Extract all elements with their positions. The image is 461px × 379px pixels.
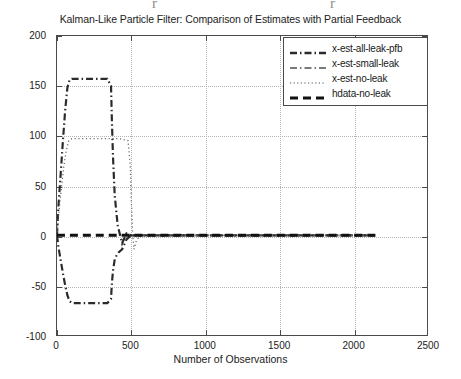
legend-item[interactable]: x-est-small-leak (284, 56, 428, 71)
x-axis-tick-label: 500 (122, 340, 139, 351)
legend-item[interactable]: x-est-all-leak-pfb (284, 41, 428, 56)
trace-x-est-no-leak (57, 139, 375, 250)
x-axis-label: Number of Observations (0, 353, 461, 365)
y-axis-tick-label: 200 (0, 30, 46, 41)
y-axis-tick-label: -100 (0, 331, 46, 342)
x-axis-tick-label: 2000 (342, 340, 364, 351)
y-axis-tick-label: 0 (0, 230, 46, 241)
legend-line-sample (289, 59, 327, 69)
legend-line-sample (289, 44, 327, 54)
chart-figure: Kalman-Like Particle Filter: Comparison … (0, 0, 461, 379)
legend-item-label: x-est-small-leak (332, 58, 399, 69)
x-axis-tick-label: 0 (53, 340, 59, 351)
y-axis-tick-label: 50 (0, 180, 46, 191)
trace-x-est-small-leak (57, 235, 375, 303)
legend-item-label: x-est-no-leak (332, 73, 387, 84)
y-axis-tick-label: 150 (0, 80, 46, 91)
legend-item[interactable]: x-est-no-leak (284, 71, 428, 86)
y-axis-tick-label: 100 (0, 130, 46, 141)
chart-legend: x-est-all-leak-pfbx-est-small-leakx-est-… (283, 37, 428, 106)
legend-item[interactable]: hdata-no-leak (284, 86, 428, 101)
legend-line-sample (289, 74, 327, 84)
x-axis-tick-label: 2500 (417, 340, 439, 351)
plot-area: x-est-all-leak-pfbx-est-small-leakx-est-… (56, 35, 428, 336)
legend-item-label: hdata-no-leak (332, 88, 391, 99)
legend-line-sample (289, 89, 327, 99)
chart-title: Kalman-Like Particle Filter: Comparison … (0, 13, 461, 25)
y-axis-tick-label: -50 (0, 280, 46, 291)
legend-item-label: x-est-all-leak-pfb (332, 43, 402, 54)
x-axis-tick-label: 1500 (268, 340, 290, 351)
x-axis-tick-label: 1000 (194, 340, 216, 351)
